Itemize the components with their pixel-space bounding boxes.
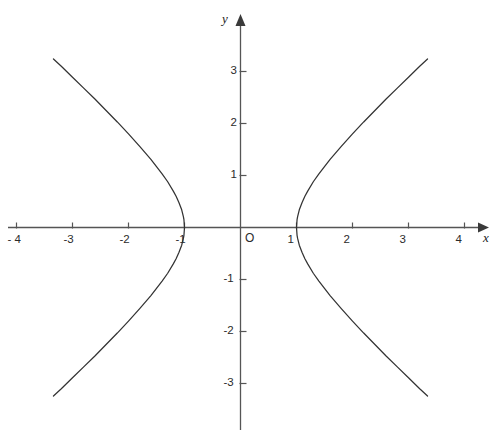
- y-axis-arrowhead: [236, 14, 246, 26]
- x-tick-label: 1: [288, 233, 294, 245]
- origin-label: O: [245, 231, 254, 245]
- x-tick-label: - 4: [8, 233, 21, 245]
- graph-figure: - 4-3-2-11234-3-2-1123 O x y: [0, 0, 496, 445]
- y-tick-label: 3: [231, 64, 237, 76]
- x-tick-label: -1: [176, 233, 186, 245]
- y-tick-label: 2: [231, 116, 237, 128]
- x-tick-label: -2: [120, 233, 130, 245]
- x-tick-label: -3: [64, 233, 74, 245]
- y-tick-label: -1: [224, 272, 234, 284]
- x-axis-label: x: [483, 230, 489, 246]
- hyperbola-plot: [0, 0, 496, 445]
- x-tick-label: 4: [456, 233, 462, 245]
- x-tick-label: 2: [344, 233, 350, 245]
- y-tick-label: 1: [231, 168, 237, 180]
- x-tick-label: 3: [400, 233, 406, 245]
- y-tick-label: -3: [224, 376, 234, 388]
- y-tick-label: -2: [224, 324, 234, 336]
- y-axis-label: y: [222, 11, 228, 27]
